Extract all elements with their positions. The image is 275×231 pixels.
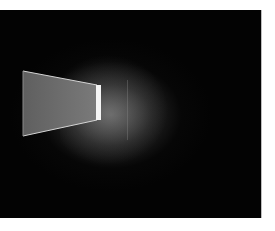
photo [0,10,262,218]
trapezoid-panel [23,71,97,136]
light-panel [0,10,261,218]
bright-slit [96,85,101,120]
